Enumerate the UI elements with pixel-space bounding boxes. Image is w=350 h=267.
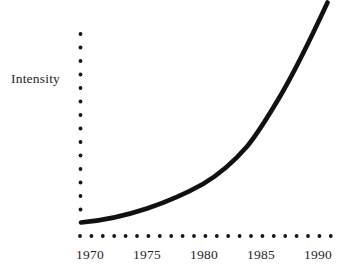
y-axis-tick-dot bbox=[79, 154, 83, 158]
x-axis-tick-label: 1970 bbox=[76, 247, 104, 262]
x-axis-tick-label: 1990 bbox=[304, 247, 332, 262]
x-axis-tick-dot bbox=[192, 234, 196, 238]
intensity-trend-line bbox=[81, 3, 328, 223]
x-axis-dotted-ticks bbox=[78, 234, 333, 238]
x-axis-tick-dot bbox=[226, 234, 230, 238]
x-axis-tick-dot bbox=[329, 234, 333, 238]
x-axis-tick-dot bbox=[169, 234, 173, 238]
x-axis-tick-dot bbox=[112, 234, 116, 238]
x-axis-tick-dot bbox=[204, 234, 208, 238]
x-axis-tick-dot bbox=[158, 234, 162, 238]
x-axis-tick-label: 1985 bbox=[247, 247, 275, 262]
y-axis-tick-dot bbox=[79, 113, 83, 117]
y-axis-tick-dot bbox=[79, 181, 83, 185]
x-axis-tick-dot bbox=[181, 234, 185, 238]
x-axis-tick-label: 1980 bbox=[190, 247, 218, 262]
x-axis-tick-dot bbox=[78, 234, 82, 238]
y-axis-tick-dot bbox=[79, 167, 83, 171]
chart-figure: Intensity bbox=[0, 0, 350, 267]
y-axis-tick-dot bbox=[79, 194, 83, 198]
y-axis-dotted-ticks bbox=[79, 32, 83, 211]
x-axis-tick-dot bbox=[283, 234, 287, 238]
x-axis-tick-dot bbox=[215, 234, 219, 238]
y-axis-tick-dot bbox=[79, 86, 83, 90]
x-axis-tick-dot bbox=[306, 234, 310, 238]
x-axis-tick-dot bbox=[318, 234, 322, 238]
chart-plot-area: 1970 1975 1980 1985 1990 bbox=[0, 0, 350, 267]
x-axis-tick-dot bbox=[135, 234, 139, 238]
y-axis-tick-dot bbox=[79, 100, 83, 104]
x-axis-tick-labels: 1970 1975 1980 1985 1990 bbox=[76, 247, 332, 262]
x-axis-tick-dot bbox=[261, 234, 265, 238]
x-axis-tick-dot bbox=[249, 234, 253, 238]
y-axis-tick-dot bbox=[79, 59, 83, 63]
x-axis-tick-dot bbox=[272, 234, 276, 238]
x-axis-tick-dot bbox=[295, 234, 299, 238]
y-axis-tick-dot bbox=[79, 32, 83, 36]
x-axis-tick-dot bbox=[238, 234, 242, 238]
y-axis-tick-dot bbox=[79, 73, 83, 77]
x-axis-tick-dot bbox=[124, 234, 128, 238]
y-axis-tick-dot bbox=[79, 127, 83, 131]
y-axis-tick-dot bbox=[79, 140, 83, 144]
x-axis-tick-dot bbox=[147, 234, 151, 238]
x-axis-tick-label: 1975 bbox=[133, 247, 161, 262]
y-axis-tick-dot bbox=[79, 208, 83, 212]
x-axis-tick-dot bbox=[101, 234, 105, 238]
y-axis-tick-dot bbox=[79, 46, 83, 50]
x-axis-tick-dot bbox=[90, 234, 94, 238]
